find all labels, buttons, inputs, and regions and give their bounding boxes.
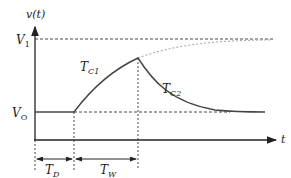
td-label: TD — [45, 163, 60, 178]
waveform-curve — [35, 58, 265, 112]
charge-asymptote-curve — [138, 40, 272, 58]
x-axis-label: t — [281, 133, 286, 146]
y-axis-label: v(t) — [26, 8, 45, 21]
v1-label: V1 — [16, 33, 30, 49]
tw-label: TW — [100, 163, 117, 178]
vo-label: VO — [12, 106, 28, 122]
tc1-label: TC1 — [80, 60, 99, 76]
waveform-diagram: v(t) t V1 VO TC1 TC2 TD TW — [0, 0, 291, 178]
tc2-label: TC2 — [162, 82, 181, 98]
